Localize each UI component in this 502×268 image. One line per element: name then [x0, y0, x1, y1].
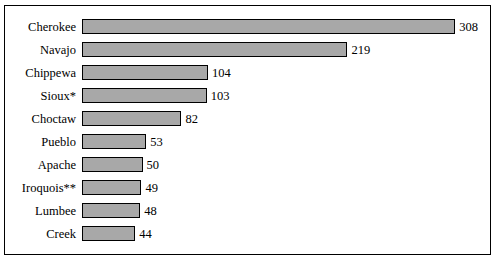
category-label: Choctaw — [0, 110, 82, 129]
bar — [82, 226, 135, 241]
bar — [82, 134, 146, 149]
bar-value-label: 82 — [185, 110, 198, 129]
bar-row: Lumbee48 — [0, 202, 502, 221]
bar — [82, 157, 143, 172]
category-label: Pueblo — [0, 133, 82, 152]
bar-value-label: 103 — [211, 87, 230, 106]
bar — [82, 42, 347, 57]
bar-track: 50 — [82, 156, 502, 175]
bar — [82, 180, 141, 195]
bar-value-label: 50 — [147, 156, 160, 175]
category-label: Chippewa — [0, 64, 82, 83]
bar-track: 44 — [82, 225, 502, 244]
category-label: Navajo — [0, 41, 82, 60]
category-label: Cherokee — [0, 18, 82, 37]
bar-track: 49 — [82, 179, 502, 198]
bar — [82, 65, 208, 80]
bar-row: Cherokee308 — [0, 18, 502, 37]
bar-row: Choctaw82 — [0, 110, 502, 129]
bar-value-label: 53 — [150, 133, 163, 152]
bar-row: Navajo219 — [0, 41, 502, 60]
bar — [82, 203, 140, 218]
bar-value-label: 219 — [351, 41, 370, 60]
bar-row: Apache50 — [0, 156, 502, 175]
bar — [82, 88, 207, 103]
bar-track: 308 — [82, 18, 502, 37]
bar-value-label: 308 — [459, 18, 478, 37]
category-label: Creek — [0, 225, 82, 244]
bar-chart: Cherokee308Navajo219Chippewa104Sioux*103… — [0, 0, 502, 268]
bar-row: Iroquois**49 — [0, 179, 502, 198]
category-label: Lumbee — [0, 202, 82, 221]
bar-value-label: 49 — [145, 179, 158, 198]
bar-track: 103 — [82, 87, 502, 106]
bar-row: Sioux*103 — [0, 87, 502, 106]
bar-value-label: 48 — [144, 202, 157, 221]
bar-row: Creek44 — [0, 225, 502, 244]
bar-value-label: 44 — [139, 225, 152, 244]
bar-value-label: 104 — [212, 64, 231, 83]
bar-row: Pueblo53 — [0, 133, 502, 152]
bar-rows: Cherokee308Navajo219Chippewa104Sioux*103… — [0, 0, 502, 268]
bar — [82, 19, 455, 34]
bar — [82, 111, 181, 126]
category-label: Sioux* — [0, 87, 82, 106]
bar-track: 82 — [82, 110, 502, 129]
bar-track: 104 — [82, 64, 502, 83]
category-label: Apache — [0, 156, 82, 175]
category-label: Iroquois** — [0, 179, 82, 198]
bar-track: 53 — [82, 133, 502, 152]
bar-track: 219 — [82, 41, 502, 60]
bar-row: Chippewa104 — [0, 64, 502, 83]
bar-track: 48 — [82, 202, 502, 221]
